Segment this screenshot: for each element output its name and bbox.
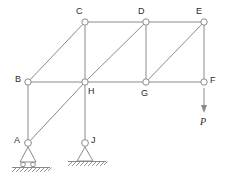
pin-support-triangle (77, 147, 93, 161)
joint-label-C: C (76, 7, 83, 16)
load-arrow (201, 88, 207, 113)
truss-diagram: C D E B H G F A J P (0, 0, 227, 182)
joint-J (82, 140, 89, 147)
joint-label-F: F (210, 76, 216, 85)
joint-G (143, 79, 149, 85)
joint-B (25, 79, 31, 85)
member-H-D (85, 22, 146, 82)
joint-A (25, 140, 32, 147)
joint-label-J: J (91, 136, 96, 145)
joint-D (143, 19, 149, 25)
joint-label-G: G (141, 89, 148, 98)
member-A-H (28, 82, 85, 143)
truss-joints (25, 19, 208, 147)
member-G-E (146, 22, 204, 82)
joint-E (201, 19, 207, 25)
load-arrow-head (201, 105, 207, 113)
joint-C (82, 19, 88, 25)
roller-support-triangle (20, 147, 36, 162)
joint-label-B: B (15, 75, 21, 84)
roller-support-A (12, 147, 52, 172)
joint-label-A: A (14, 136, 20, 145)
roller-ground-hatching (12, 168, 52, 173)
roller-wheel-left (21, 162, 26, 167)
joint-label-E: E (196, 7, 202, 16)
roller-wheel-right (31, 162, 36, 167)
pin-ground-hatching (68, 162, 108, 167)
joint-H (82, 79, 88, 85)
joint-F (201, 79, 207, 85)
pin-support-J (68, 147, 108, 166)
truss-members (28, 22, 204, 143)
joint-label-D: D (138, 7, 145, 16)
joint-label-H: H (88, 87, 95, 96)
load-label-P: P (200, 117, 206, 127)
truss-svg (0, 0, 227, 182)
member-B-C (28, 22, 85, 82)
